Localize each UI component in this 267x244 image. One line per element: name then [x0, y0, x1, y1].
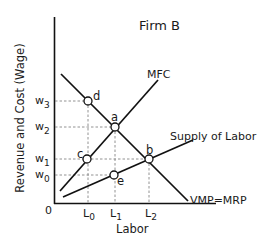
firm-b-diagram: Firm B Revenue and Cost (Wage) MFC Suppl…: [0, 0, 267, 244]
x-axis-label: Labor: [116, 222, 149, 236]
tick-w3: w3: [35, 94, 50, 110]
point-a-label: a: [111, 110, 118, 124]
vmp-mrp-curve: [61, 74, 188, 201]
diagram-title: Firm B: [139, 18, 180, 33]
mfc-curve: [60, 80, 158, 191]
tick-l1: L1: [110, 207, 122, 222]
tick-w2: w2: [35, 120, 50, 136]
tick-l2: L2: [145, 207, 157, 222]
point-a-marker: [111, 123, 119, 131]
tick-w1: w1: [35, 152, 50, 168]
point-e-label: e: [117, 174, 124, 188]
mfc-label: MFC: [147, 68, 171, 81]
vmp-mrp-label: VMP=MRP: [190, 194, 247, 207]
guide-lines: [55, 101, 149, 203]
supply-label: Supply of Labor: [170, 130, 257, 143]
origin-label: 0: [45, 204, 52, 217]
point-d-label: d: [93, 89, 100, 103]
y-axis-label: Revenue and Cost (Wage): [13, 43, 27, 192]
tick-w0: w0: [35, 168, 50, 184]
point-d-marker: [84, 97, 92, 105]
tick-l0: L0: [83, 207, 95, 222]
point-b-label: b: [146, 143, 153, 157]
point-c-label: c: [77, 147, 83, 161]
point-c-marker: [83, 155, 91, 163]
